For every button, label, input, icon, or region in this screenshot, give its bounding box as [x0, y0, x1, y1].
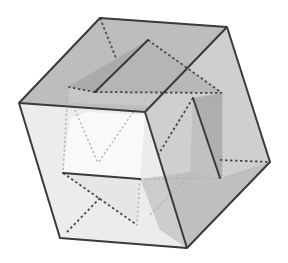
icosahedron-in-cube-diagram	[0, 0, 288, 263]
inner-face-front-white	[63, 112, 145, 179]
